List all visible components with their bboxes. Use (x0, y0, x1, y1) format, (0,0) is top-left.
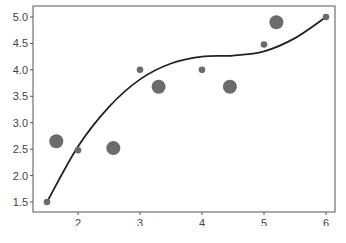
x-tick-label: 4 (199, 217, 205, 226)
x-tick-label: 5 (261, 217, 267, 226)
y-tick-label: 2.0 (13, 170, 28, 182)
plot-area (33, 6, 335, 212)
x-tick-label: 3 (137, 217, 143, 226)
y-tick-label: 2.5 (13, 143, 28, 155)
data-point (137, 67, 144, 74)
y-tick-label: 3.0 (13, 117, 28, 129)
x-tick-label: 2 (75, 217, 81, 226)
data-point (269, 15, 283, 29)
y-tick-label: 4.5 (13, 37, 28, 49)
data-point (323, 14, 330, 21)
x-tick-label: 6 (323, 217, 329, 226)
data-point (106, 141, 120, 155)
scatter-chart: 1.52.02.53.03.54.04.55.0 23456 (0, 0, 346, 226)
y-tick-label: 5.0 (13, 11, 28, 23)
y-axis: 1.52.02.53.03.54.04.55.0 (13, 11, 33, 208)
x-axis: 23456 (75, 212, 329, 226)
data-point (261, 41, 268, 48)
data-point (44, 199, 51, 206)
data-point (223, 80, 237, 94)
data-point (49, 134, 63, 148)
y-tick-label: 3.5 (13, 90, 28, 102)
y-tick-label: 4.0 (13, 64, 28, 76)
data-point (75, 147, 82, 154)
data-point (199, 67, 206, 74)
y-tick-label: 1.5 (13, 196, 28, 208)
data-point (152, 80, 166, 94)
